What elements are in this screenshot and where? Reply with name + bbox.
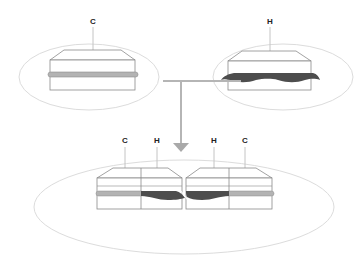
label-c-top: C <box>90 17 96 26</box>
top-right-group-h: H <box>213 17 353 110</box>
top-right-block-chamfer <box>228 51 311 61</box>
arrow-down-icon <box>173 143 189 152</box>
bottom-right-light-band <box>227 191 274 196</box>
label-c-bottom-left: C <box>122 136 128 145</box>
diagram-canvas: C H C H H C <box>0 0 363 256</box>
top-left-group-c: C <box>19 17 159 110</box>
label-h-bottom-left: H <box>154 136 160 145</box>
bottom-ellipse <box>34 160 334 254</box>
label-h-top: H <box>267 17 273 26</box>
top-left-light-band <box>48 72 138 77</box>
label-c-bottom-right: C <box>242 136 248 145</box>
bottom-left-pair-chamfer <box>97 168 182 178</box>
label-h-bottom-right: H <box>211 136 217 145</box>
bottom-group-assembly: C H H C <box>34 136 334 254</box>
top-left-block-chamfer <box>50 50 135 60</box>
bottom-left-light-band <box>96 191 143 196</box>
connector <box>163 81 241 152</box>
